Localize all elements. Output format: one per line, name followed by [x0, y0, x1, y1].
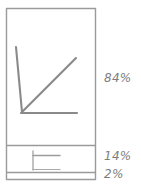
percent-label-top: 84% — [104, 72, 132, 84]
arrow-shaft-descending — [16, 47, 22, 112]
percent-label-bottom: 2% — [104, 168, 124, 180]
percent-label-middle: 14% — [104, 150, 132, 162]
arrow-diagonal-rising — [22, 58, 76, 112]
sketch-figure: 84% 14% 2% — [0, 0, 141, 189]
e-glyph — [33, 151, 60, 170]
arrow-glyph — [16, 47, 77, 113]
